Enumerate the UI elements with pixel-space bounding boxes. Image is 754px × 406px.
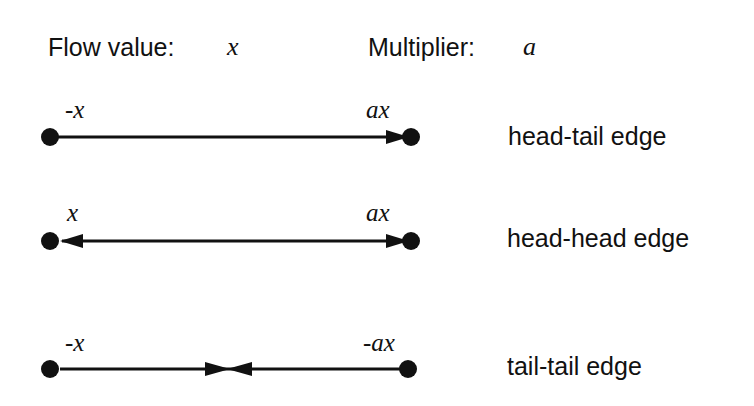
head-tail-left-value: -x [65,96,84,124]
arrowhead-icon [227,362,252,376]
head-tail-right-value: ax [366,96,390,124]
node-icon [41,232,59,250]
node-icon [41,360,59,378]
arrowhead-icon [205,362,230,376]
tail-tail-right-value: -ax [363,329,395,357]
tail-tail-left-value: -x [65,329,84,357]
tail-tail-edge-label: tail-tail edge [507,352,642,381]
node-icon [402,232,420,250]
head-head-left-value: x [67,199,78,227]
head-tail-edge-label: head-tail edge [508,122,666,151]
head-head-edge-graphic [41,232,420,250]
arrowhead-icon [60,234,83,248]
head-tail-edge-graphic [41,128,420,146]
tail-tail-edge-graphic [41,360,417,378]
head-head-edge-label: head-head edge [507,224,689,253]
node-icon [402,128,420,146]
head-head-right-value: ax [366,199,390,227]
node-icon [399,360,417,378]
node-icon [41,128,59,146]
